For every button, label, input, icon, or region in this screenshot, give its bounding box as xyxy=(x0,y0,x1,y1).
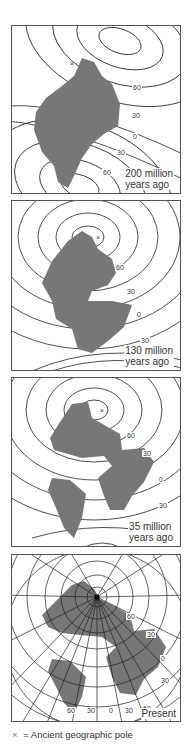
svg-text:60: 60 xyxy=(67,707,75,714)
svg-text:30: 30 xyxy=(125,707,133,714)
pole-x-icon: × xyxy=(12,729,18,740)
svg-text:60: 60 xyxy=(103,169,111,176)
pole-x-130: × xyxy=(96,234,100,241)
svg-text:60: 60 xyxy=(127,432,135,439)
map-panel-present: 60 30 0 30 60 30 0 30 60 Present xyxy=(11,554,181,722)
graticule-present: 60 30 0 30 60 30 0 30 60 xyxy=(12,555,181,722)
svg-text:30: 30 xyxy=(127,288,135,295)
svg-text:30: 30 xyxy=(87,707,95,714)
legend-text: = Ancient geographic pole xyxy=(23,729,133,740)
map-panel-130-mya: × 60 30 0 30 130 million years ago xyxy=(11,200,181,371)
svg-text:30: 30 xyxy=(117,149,125,156)
svg-text:60: 60 xyxy=(116,264,124,271)
svg-text:0: 0 xyxy=(137,311,141,318)
pole-x-35: × xyxy=(100,407,104,414)
map-panel-35-mya: × 60 30 0 30 35 million years ago xyxy=(11,377,181,547)
age-label-200: 200 million years ago xyxy=(124,168,174,190)
svg-text:30: 30 xyxy=(143,450,151,457)
svg-text:0: 0 xyxy=(109,707,113,714)
pole-x-200: × xyxy=(70,60,74,67)
map-panel-200-mya: × 60 30 0 30 60 200 million years ago xyxy=(11,25,181,194)
svg-text:30: 30 xyxy=(132,112,140,119)
svg-text:0: 0 xyxy=(159,476,163,483)
continents-35 xyxy=(48,402,154,538)
svg-text:30: 30 xyxy=(141,337,149,344)
svg-text:30: 30 xyxy=(159,502,167,509)
continents-130 xyxy=(42,231,132,353)
present-pole-marker xyxy=(95,595,100,600)
svg-text:0: 0 xyxy=(161,655,165,662)
svg-text:0: 0 xyxy=(133,133,137,140)
age-label-35: 35 million years ago xyxy=(128,521,174,543)
svg-text:60: 60 xyxy=(127,613,135,620)
legend: × = Ancient geographic pole xyxy=(12,729,133,740)
svg-text:60: 60 xyxy=(133,84,141,91)
svg-text:30: 30 xyxy=(161,677,169,684)
svg-text:30: 30 xyxy=(147,631,155,638)
age-label-present: Present xyxy=(141,708,177,719)
age-label-130: 130 million years ago xyxy=(124,345,174,367)
